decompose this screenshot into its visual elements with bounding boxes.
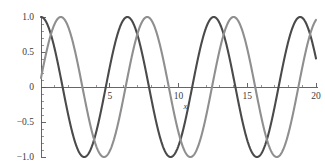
chart-figure: 5101520 −1.0−0.500.51.0 x xyxy=(0,0,325,168)
y-tick-label-0: 0 xyxy=(29,82,34,92)
x-axis-label: x xyxy=(182,101,187,111)
x-tick-label-5: 5 xyxy=(107,91,112,101)
y-tick-label-neg1-0: −1.0 xyxy=(17,152,34,162)
y-tick-label-neg0-5: −0.5 xyxy=(17,117,34,127)
x-tick-label-20: 20 xyxy=(311,91,321,101)
plot-canvas: 5101520 −1.0−0.500.51.0 x xyxy=(0,0,325,168)
x-tick-label-10: 10 xyxy=(174,91,184,101)
y-tick-label-1neg0: 1.0 xyxy=(22,12,34,22)
y-tick-label-0neg5: 0.5 xyxy=(22,47,34,57)
x-tick-label-15: 15 xyxy=(243,91,253,101)
